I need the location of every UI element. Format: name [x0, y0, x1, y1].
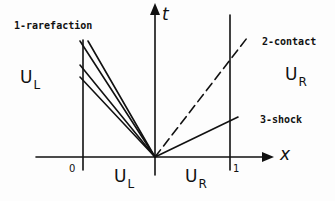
- tick-label-0: 0: [69, 164, 75, 174]
- state-subscript: L: [33, 78, 40, 92]
- state-upper-left: UL: [20, 69, 40, 86]
- x-axis-arrow-icon: [262, 152, 274, 162]
- tick-label-1: 1: [233, 164, 239, 174]
- state-lower-left: UL: [114, 168, 134, 185]
- state-symbol: U: [114, 166, 126, 186]
- contact-discontinuity: [155, 38, 247, 157]
- riemann-diagram: t x 0 1 1-rarefaction 2-contact 3-shock …: [0, 0, 335, 201]
- t-axis-label: t: [162, 6, 169, 23]
- rarefaction-fan: [80, 41, 155, 157]
- t-axis-arrow-icon: [150, 3, 160, 15]
- state-symbol: U: [185, 166, 197, 186]
- x-axis-label: x: [280, 146, 290, 163]
- state-symbol: U: [20, 67, 32, 87]
- shock-label: 3-shock: [260, 115, 302, 125]
- shock-wave: [155, 117, 238, 157]
- state-subscript: L: [127, 177, 134, 191]
- state-subscript: R: [298, 75, 306, 89]
- contact-label: 2-contact: [262, 37, 316, 47]
- state-subscript: R: [198, 177, 206, 191]
- rarefaction-label: 1-rarefaction: [14, 21, 92, 31]
- state-lower-right: UR: [185, 168, 207, 185]
- state-symbol: U: [285, 64, 297, 84]
- state-upper-right: UR: [285, 66, 307, 83]
